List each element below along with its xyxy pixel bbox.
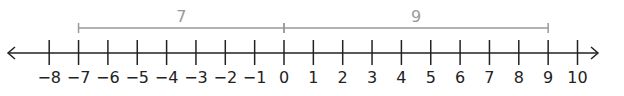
- tick-label: 7: [484, 68, 494, 87]
- tick-label: −6: [96, 68, 120, 87]
- tick-label: 10: [567, 68, 587, 87]
- tick-label: −7: [67, 68, 91, 87]
- distance-bracket: 7: [79, 7, 284, 33]
- bracket-label: 7: [176, 7, 186, 26]
- distance-brackets: 79: [79, 7, 549, 33]
- tick-label: 0: [279, 68, 289, 87]
- tick-label: 8: [514, 68, 524, 87]
- tick-label: −2: [214, 68, 238, 87]
- tick-label: 9: [543, 68, 553, 87]
- tick-label: 1: [308, 68, 318, 87]
- tick-label: −3: [184, 68, 208, 87]
- tick-label: −5: [125, 68, 149, 87]
- tick-labels: −8−7−6−5−4−3−2−1012345678910: [37, 68, 587, 87]
- axis: [8, 47, 598, 59]
- tick-label: 2: [338, 68, 348, 87]
- tick-label: 4: [396, 68, 406, 87]
- tick-label: −4: [155, 68, 179, 87]
- bracket-label: 9: [411, 7, 421, 26]
- tick-label: 6: [455, 68, 465, 87]
- tick-label: −1: [243, 68, 267, 87]
- tick-label: −8: [37, 68, 61, 87]
- tick-label: 3: [367, 68, 377, 87]
- number-line: 79 −8−7−6−5−4−3−2−1012345678910: [0, 0, 624, 96]
- tick-label: 5: [426, 68, 436, 87]
- distance-bracket: 9: [284, 7, 548, 33]
